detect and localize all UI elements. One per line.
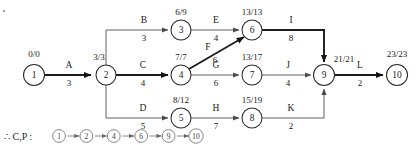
node-event-9: 9 [314, 65, 335, 86]
node-event-7: 7 [242, 65, 262, 85]
node-event-4: 4 [171, 65, 191, 85]
activity-duration-i: 8 [289, 33, 294, 43]
node-number-7: 7 [250, 70, 255, 80]
node-times-8: 15/19 [242, 95, 263, 105]
node-times-6: 13/13 [242, 7, 263, 17]
node-number-9: 9 [322, 70, 327, 80]
critical-path-node-2: 2 [80, 130, 93, 143]
activity-name-j: J [286, 60, 290, 70]
activity-name-f: F [205, 42, 210, 52]
critical-path-label: ∴ C,P : [4, 131, 32, 142]
node-number-4: 4 [179, 70, 184, 80]
node-number-5: 5 [179, 113, 184, 123]
critical-path-node-number-6: 6 [139, 132, 143, 141]
activity-name-l: L [357, 60, 363, 70]
activity-duration-h: 7 [214, 121, 219, 131]
node-event-3: 3 [171, 20, 191, 40]
edge-activity-b [106, 30, 168, 65]
node-times-4: 7/7 [175, 52, 187, 62]
critical-path-node-4: 4 [107, 130, 120, 143]
edge-activity-d [106, 85, 168, 118]
network-diagram-canvas: 12345678910 A3B3C4D5E4F6G6H7I8J4K2L20/03… [0, 0, 420, 145]
activity-duration-g: 6 [214, 78, 219, 88]
critical-path-node-10: 10 [189, 129, 203, 143]
node-times-7: 13/17 [242, 52, 263, 62]
activity-duration-k: 2 [289, 121, 294, 131]
scan-speck [3, 10, 5, 12]
node-times-10: 23/23 [387, 49, 408, 59]
critical-path-node-number-9: 9 [167, 132, 171, 141]
node-event-8: 8 [242, 108, 262, 128]
node-number-3: 3 [179, 25, 184, 35]
activity-name-d: D [140, 103, 147, 113]
node-times-2: 3/3 [93, 52, 105, 62]
activity-duration-e: 4 [214, 33, 219, 43]
activity-duration-c: 4 [141, 78, 146, 88]
activity-name-h: H [213, 103, 220, 113]
node-number-6: 6 [250, 25, 255, 35]
node-times-3: 6/9 [175, 7, 187, 17]
activity-duration-j: 4 [286, 78, 291, 88]
node-event-6: 6 [242, 20, 262, 40]
labels-layer: A3B3C4D5E4F6G6H7I8J4K2L20/03/36/97/78/12… [28, 7, 408, 131]
critical-path-node-number-4: 4 [112, 132, 116, 141]
node-number-1: 1 [32, 70, 37, 80]
activity-duration-l: 2 [358, 78, 363, 88]
node-times-1: 0/0 [28, 49, 40, 59]
critical-path-node-number-10: 10 [192, 132, 200, 141]
activity-name-k: K [288, 103, 295, 113]
node-event-10: 10 [387, 65, 408, 86]
critical-path-node-9: 9 [162, 130, 175, 143]
activity-name-c: C [140, 60, 146, 70]
critical-path-node-number-2: 2 [85, 132, 89, 141]
network-diagram: 12345678910 A3B3C4D5E4F6G6H7I8J4K2L20/03… [0, 0, 420, 145]
critical-path-node-number-1: 1 [57, 132, 61, 141]
activity-name-b: B [141, 15, 147, 25]
node-event-1: 1 [24, 65, 45, 86]
activity-duration-b: 3 [142, 33, 147, 43]
critical-path-node-1: 1 [53, 130, 66, 143]
activity-name-i: I [289, 15, 292, 25]
activity-duration-a: 3 [67, 78, 72, 88]
critical-path-layer: ∴ C,P :1246910 [4, 129, 203, 143]
activity-name-e: E [213, 15, 219, 25]
node-number-10: 10 [392, 70, 402, 80]
activity-name-g: G [213, 60, 220, 70]
critical-path-node-6: 6 [135, 130, 148, 143]
node-times-9: 21/21 [334, 54, 355, 64]
node-times-5: 8/12 [173, 95, 189, 105]
activity-name-a: A [66, 60, 73, 70]
node-event-2: 2 [96, 65, 116, 85]
node-event-5: 5 [171, 108, 191, 128]
node-number-8: 8 [250, 113, 255, 123]
node-number-2: 2 [104, 70, 109, 80]
